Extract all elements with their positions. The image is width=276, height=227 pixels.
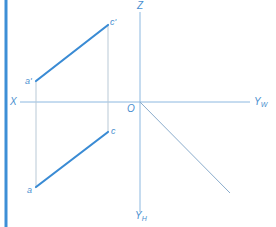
yw-label-main: Y: [254, 96, 261, 107]
point-label-c: c: [111, 127, 116, 136]
origin-label: O: [127, 104, 135, 114]
yw-label-sub: W: [261, 101, 268, 108]
segment-a-c: [36, 132, 108, 187]
point-label-c-prime: c': [110, 18, 116, 27]
point-label-a: a: [27, 186, 32, 195]
projection-diagram: [0, 0, 276, 227]
x-axis-label: X: [10, 97, 17, 107]
yw-axis-label: YW: [254, 97, 267, 108]
yh-label-main: Y: [135, 210, 142, 221]
yh-label-sub: H: [142, 215, 147, 222]
z-axis-label: Z: [137, 1, 143, 11]
yh-axis-label: YH: [135, 211, 147, 222]
segment-a-prime-c-prime: [36, 25, 108, 81]
diagonal-auxiliary-line: [140, 102, 230, 193]
point-label-a-prime: a': [25, 77, 32, 86]
